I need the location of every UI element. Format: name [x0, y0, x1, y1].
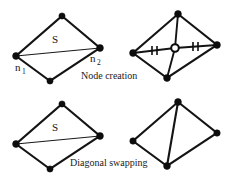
vertex-left: [13, 141, 20, 148]
panel-node-creation-after: [130, 11, 221, 82]
vertex-top: [59, 13, 65, 19]
vertex-top: [59, 101, 65, 107]
vertex-left-n1: [13, 53, 20, 60]
caption-node-creation: Node creation: [81, 70, 137, 81]
swapped-diagonal: [167, 102, 178, 166]
vertex-right: [97, 133, 104, 140]
mesh-diagram-canvas: S n 1 n 2: [0, 0, 234, 179]
mesh-operations-figure: S n 1 n 2: [0, 0, 234, 179]
vertex-top: [175, 99, 182, 106]
label-n2-subscript: 2: [97, 58, 101, 67]
vertex-bottom: [164, 75, 171, 82]
diagonal-segment-s-top: [16, 48, 100, 56]
label-s-bottom: S: [52, 121, 58, 133]
vertex-bottom: [47, 166, 53, 172]
vertex-left: [130, 50, 137, 57]
new-node-marker: [171, 44, 179, 52]
vertex-bottom: [164, 163, 171, 170]
spoke-to-right: [175, 45, 217, 48]
vertex-right: [214, 42, 221, 49]
label-n1: n: [15, 61, 21, 73]
diagonal-segment-s-bottom: [16, 136, 100, 144]
vertex-right: [214, 130, 220, 136]
vertex-bottom: [47, 78, 53, 84]
caption-diagonal-swapping: Diagonal swapping: [70, 157, 148, 168]
label-s-top: S: [52, 33, 58, 45]
label-n1-subscript: 1: [22, 67, 26, 76]
vertex-left: [130, 138, 136, 144]
spoke-to-top: [175, 14, 178, 48]
vertex-top: [175, 11, 182, 18]
label-n2: n: [90, 52, 96, 64]
vertex-right-n2: [97, 45, 104, 52]
